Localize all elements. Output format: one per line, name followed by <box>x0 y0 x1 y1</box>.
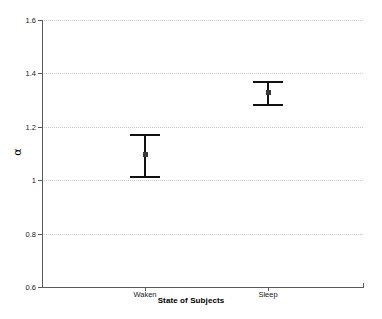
gridline-0.8 <box>42 234 363 235</box>
ytick-label-0.6: 0.6 <box>6 283 36 292</box>
errorbar-sleep <box>248 20 288 287</box>
gridline-1.6 <box>42 20 363 21</box>
ytick-label-1.4: 1.4 <box>6 69 36 78</box>
errorbar-waken <box>125 20 165 287</box>
x-axis-title: State of Subjects <box>0 296 382 305</box>
x-axis-line <box>42 287 364 288</box>
gridline-1.0 <box>42 180 363 181</box>
gridline-1.2 <box>42 127 363 128</box>
xtick-mark-axis-end <box>363 283 364 288</box>
ytick-label-1.2: 1.2 <box>6 123 36 132</box>
y-axis-title: α <box>8 143 26 161</box>
errorbar-sleep-mean-marker <box>266 90 271 95</box>
ytick-label-1.0: 1 <box>6 176 36 185</box>
y-axis-line <box>42 20 43 288</box>
errorbar-sleep-cap-lower <box>253 104 283 106</box>
ytick-label-0.8: 0.8 <box>6 230 36 239</box>
errorbar-waken-cap-lower <box>130 176 160 178</box>
chart-figure: 1.6 1.4 1.2 1 0.8 0.6 Waken Sleep State … <box>0 0 382 319</box>
errorbar-waken-mean-marker <box>143 152 148 157</box>
ytick-label-1.6: 1.6 <box>6 16 36 25</box>
gridline-1.4 <box>42 73 363 74</box>
plot-area <box>42 20 363 287</box>
